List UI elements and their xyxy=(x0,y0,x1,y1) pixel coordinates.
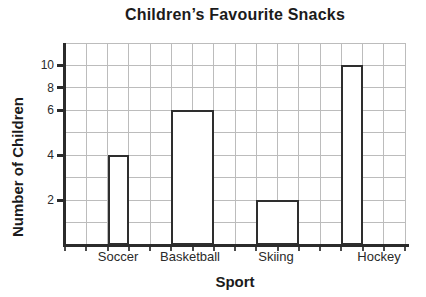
x-axis-title: Sport xyxy=(65,273,405,290)
category-label-basketball: Basketball xyxy=(142,249,238,264)
x-tick-mark xyxy=(85,247,87,251)
x-tick-mark xyxy=(362,247,364,251)
y-tick-mark xyxy=(57,64,64,67)
worksheet-page: Children’s Favourite Snacks Number of Ch… xyxy=(0,0,426,297)
y-axis-title: Number of Children xyxy=(9,97,26,237)
x-tick-mark xyxy=(107,247,109,251)
y-tick-mark xyxy=(57,154,64,157)
y-tick-label: 8 xyxy=(28,81,54,95)
x-tick-mark xyxy=(234,247,236,251)
y-tick-mark xyxy=(57,109,64,112)
x-tick-mark xyxy=(213,247,215,251)
x-tick-mark xyxy=(192,247,194,251)
x-tick-mark xyxy=(128,247,130,251)
gridline-vertical xyxy=(405,43,406,245)
bar-hockey xyxy=(341,65,362,245)
bar-soccer xyxy=(108,155,129,245)
bar-basketball xyxy=(171,110,214,245)
x-tick-mark xyxy=(170,247,172,251)
x-tick-mark xyxy=(383,247,385,251)
category-label-skiing: Skiing xyxy=(228,249,324,264)
x-tick-mark xyxy=(404,247,406,251)
gridline-vertical xyxy=(383,43,384,245)
y-tick-mark xyxy=(57,199,64,202)
x-tick-mark xyxy=(149,247,151,251)
x-tick-mark xyxy=(64,247,66,251)
y-tick-label: 6 xyxy=(28,103,54,117)
x-tick-mark xyxy=(255,247,257,251)
x-tick-mark xyxy=(277,247,279,251)
x-tick-mark xyxy=(298,247,300,251)
y-tick-label: 2 xyxy=(28,193,54,207)
y-tick-label: 10 xyxy=(28,58,54,72)
y-tick-label: 4 xyxy=(28,148,54,162)
chart-title: Children’s Favourite Snacks xyxy=(65,6,405,24)
gridline-vertical xyxy=(86,43,87,245)
gridline-horizontal xyxy=(65,43,405,44)
y-tick-mark xyxy=(57,86,64,89)
x-tick-mark xyxy=(319,247,321,251)
category-label-hockey: Hockey xyxy=(331,249,426,264)
gridline-vertical xyxy=(235,43,236,245)
bar-skiing xyxy=(256,200,299,245)
x-tick-mark xyxy=(340,247,342,251)
gridline-vertical xyxy=(150,43,151,245)
y-axis-line xyxy=(63,43,66,246)
gridline-vertical xyxy=(320,43,321,245)
